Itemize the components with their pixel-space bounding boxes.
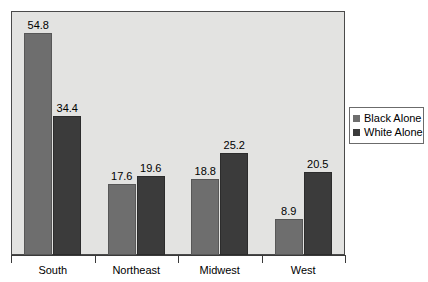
bar-value-label: 34.4: [47, 103, 87, 114]
x-axis-category-label: South: [11, 264, 95, 277]
x-axis-category-label: Midwest: [178, 264, 262, 277]
legend-item-label: White Alone: [364, 127, 423, 138]
bar: [275, 219, 303, 255]
legend-item-label: Black Alone: [364, 113, 421, 124]
x-axis-tick: [95, 255, 96, 263]
bar: [137, 176, 165, 255]
x-axis-tick: [262, 255, 263, 263]
bar: [53, 116, 81, 255]
bar: [304, 172, 332, 255]
bar: [24, 33, 52, 255]
bar-value-label: 19.6: [131, 163, 171, 174]
bar-value-label: 25.2: [214, 140, 254, 151]
x-axis-tick: [178, 255, 179, 263]
chart-legend: Black Alone White Alone: [349, 107, 424, 144]
bar: [220, 153, 248, 255]
x-axis-tick: [11, 255, 12, 263]
bar: [191, 179, 219, 255]
legend-item[interactable]: Black Alone: [353, 112, 420, 125]
legend-swatch-icon: [353, 129, 360, 136]
legend-item[interactable]: White Alone: [353, 126, 420, 139]
bar-value-label: 54.8: [18, 20, 58, 31]
x-axis-category-label: West: [262, 264, 346, 277]
bar-value-label: 8.9: [269, 206, 309, 217]
x-axis-category-label: Northeast: [95, 264, 179, 277]
bar-value-label: 20.5: [298, 159, 338, 170]
bar: [108, 184, 136, 255]
bars-layer: 54.834.417.619.618.825.28.920.5: [11, 11, 345, 255]
x-axis-tick: [345, 255, 346, 263]
legend-swatch-icon: [353, 115, 360, 122]
bar-chart: 54.834.417.619.618.825.28.920.5 SouthNor…: [0, 0, 428, 282]
bar-value-label: 18.8: [185, 166, 225, 177]
